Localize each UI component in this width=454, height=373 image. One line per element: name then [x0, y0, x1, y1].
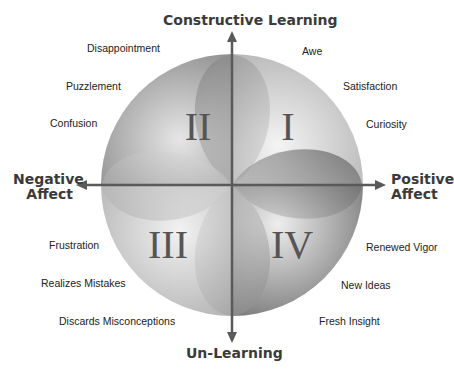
- quadrant-label-iv: IV: [271, 222, 313, 267]
- emotion-label: New Ideas: [341, 279, 391, 291]
- emotion-label: Disappointment: [87, 42, 160, 54]
- emotion-label: Discards Misconceptions: [59, 315, 175, 327]
- quadrant-label-iii: III: [148, 222, 188, 267]
- emotion-label: Satisfaction: [343, 80, 397, 92]
- arrow-down-icon: [227, 332, 237, 343]
- arrow-up-icon: [227, 31, 237, 42]
- axis-title-right-line1: Positive: [391, 172, 454, 187]
- axis-title-left-line2: Affect: [13, 187, 73, 202]
- emotion-label: Frustration: [49, 239, 99, 251]
- axis-title-left: Negative Affect: [13, 172, 73, 202]
- emotion-label: Puzzlement: [66, 80, 121, 92]
- axis-title-right: Positive Affect: [391, 172, 454, 202]
- axis-title-right-line2: Affect: [391, 187, 454, 202]
- axis-title-top: Constructive Learning: [163, 13, 338, 28]
- emotion-label: Fresh Insight: [319, 315, 380, 327]
- emotion-label: Renewed Vigor: [366, 241, 438, 253]
- emotion-label: Curiosity: [366, 118, 407, 130]
- quadrant-label-ii: II: [185, 104, 212, 149]
- axis-title-left-line1: Negative: [13, 172, 73, 187]
- quadrant-label-i: I: [281, 104, 294, 149]
- emotion-label: Confusion: [50, 117, 97, 129]
- emotion-label: Realizes Mistakes: [41, 277, 126, 289]
- arrow-right-icon: [375, 180, 386, 190]
- emotion-label: Awe: [302, 45, 322, 57]
- axis-title-bottom: Un-Learning: [186, 346, 283, 361]
